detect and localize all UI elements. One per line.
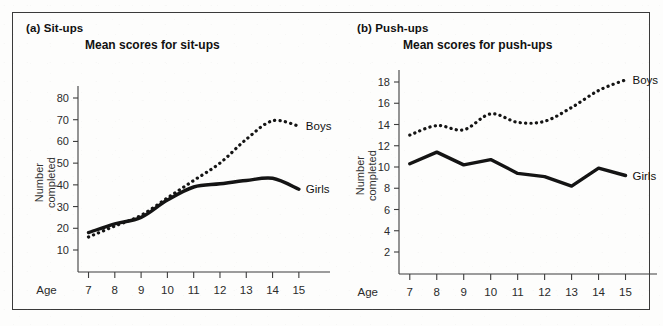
svg-text:80: 80	[57, 92, 69, 104]
svg-text:40: 40	[57, 179, 69, 191]
svg-text:10: 10	[484, 286, 497, 298]
svg-text:18: 18	[378, 76, 390, 88]
svg-text:Age: Age	[358, 286, 378, 298]
series-line-girls	[410, 152, 626, 186]
svg-text:8: 8	[384, 182, 390, 194]
panel-b-plot: 24681012141618789101112131415AgeBoysGirl…	[343, 12, 663, 310]
panel-a-plot: 1020304050607080789101112131415AgeBoysGi…	[12, 12, 343, 310]
svg-text:60: 60	[57, 135, 69, 147]
svg-text:Age: Age	[36, 284, 56, 296]
svg-text:11: 11	[188, 284, 200, 296]
svg-text:30: 30	[57, 201, 69, 213]
svg-text:70: 70	[57, 114, 69, 126]
series-label-boys: Boys	[633, 74, 659, 86]
svg-text:10: 10	[161, 284, 174, 296]
svg-text:10: 10	[378, 161, 390, 173]
svg-text:9: 9	[461, 286, 467, 298]
figure-canvas: (a) Sit-ups Mean scores for sit-ups Numb…	[0, 0, 663, 326]
svg-text:12: 12	[378, 140, 390, 152]
svg-text:13: 13	[240, 284, 253, 296]
series-line-boys	[410, 80, 626, 135]
panel-sit-ups: (a) Sit-ups Mean scores for sit-ups Numb…	[12, 12, 343, 310]
svg-text:6: 6	[384, 204, 390, 216]
svg-text:7: 7	[407, 286, 413, 298]
svg-text:11: 11	[512, 286, 524, 298]
svg-text:8: 8	[434, 286, 440, 298]
series-line-girls	[89, 178, 299, 233]
svg-text:2: 2	[384, 246, 390, 258]
svg-text:15: 15	[619, 286, 632, 298]
svg-text:10: 10	[57, 244, 69, 256]
svg-text:12: 12	[538, 286, 551, 298]
svg-text:50: 50	[57, 157, 69, 169]
svg-text:14: 14	[378, 119, 390, 131]
svg-text:8: 8	[112, 284, 118, 296]
svg-text:9: 9	[138, 284, 144, 296]
svg-text:14: 14	[266, 284, 279, 296]
svg-text:7: 7	[85, 284, 91, 296]
svg-text:13: 13	[565, 286, 578, 298]
series-label-girls: Girls	[633, 170, 657, 182]
svg-text:4: 4	[384, 225, 390, 237]
svg-text:16: 16	[378, 97, 390, 109]
svg-text:14: 14	[592, 286, 605, 298]
panel-push-ups: (b) Push-ups Mean scores for push-ups Nu…	[343, 12, 663, 310]
svg-text:15: 15	[292, 284, 305, 296]
series-label-boys: Boys	[306, 120, 332, 132]
svg-text:12: 12	[214, 284, 227, 296]
svg-text:20: 20	[57, 222, 69, 234]
series-label-girls: Girls	[306, 183, 330, 195]
